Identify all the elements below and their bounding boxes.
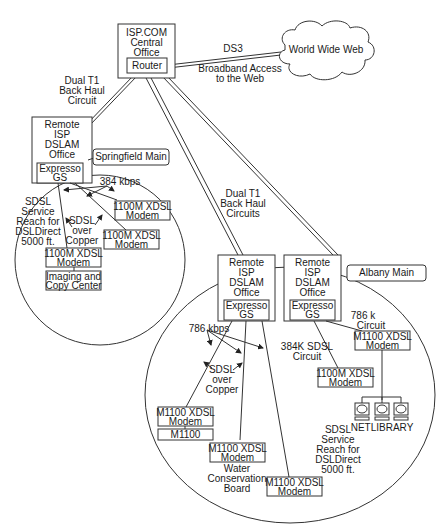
svg-text:Copper: Copper: [66, 235, 99, 246]
internet-cloud: World Wide Web: [279, 21, 374, 80]
albany-device-m1100: M1100: [158, 429, 213, 440]
svg-text:GS: GS: [239, 309, 254, 320]
albany-office-b: Remote ISP DSLAM Office Expresso GS: [284, 255, 341, 321]
svg-text:Circuit: Circuit: [357, 320, 386, 331]
albany-modem-a1: M1100 XDSL Modem: [156, 407, 215, 427]
svg-text:Office: Office: [134, 47, 160, 58]
svg-text:Modem: Modem: [278, 486, 311, 497]
svg-text:Board: Board: [224, 483, 251, 494]
svg-text:Modem: Modem: [126, 210, 159, 221]
albany-office-a: Remote ISP DSLAM Office Expresso GS: [218, 255, 275, 321]
albany-circuit-384-label: 384K SDSL Circuit: [281, 341, 334, 362]
albany-title: Albany Main: [359, 267, 414, 278]
springfield-office: Remote ISP DSLAM Office Expresso GS: [32, 117, 92, 183]
svg-text:GS: GS: [305, 309, 320, 320]
svg-text:Modem: Modem: [57, 257, 90, 268]
albany-medium-label: SDSL over Copper: [206, 364, 239, 395]
svg-text:5000 ft.: 5000 ft.: [21, 236, 54, 247]
svg-text:Modem: Modem: [329, 377, 362, 388]
svg-text:Office: Office: [300, 287, 326, 298]
albany-speed: 786 kbps: [189, 323, 230, 334]
backhaul-right-label: Dual T1 Back Haul Circuits: [220, 188, 266, 219]
springfield-modem-3: 1100M XDSL Modem: [44, 248, 103, 268]
central-office: ISP.COM Central Office Router: [118, 24, 175, 78]
springfield-title: Springfield Main: [95, 151, 167, 162]
albany-circuit-786-label: 786 k Circuit: [351, 310, 386, 331]
springfield-modem-2: 1100M XDSL Modem: [102, 230, 161, 250]
broadband-label-2: to the Web: [216, 73, 265, 84]
svg-text:World Wide Web: World Wide Web: [289, 44, 364, 55]
svg-text:GS: GS: [53, 172, 68, 183]
ds3-label: DS3: [223, 43, 243, 54]
computer-icon: [355, 403, 369, 420]
netlibrary-label: NETLIBRARY: [351, 422, 414, 433]
svg-text:Modem: Modem: [366, 340, 399, 351]
computer-icon: [394, 403, 408, 420]
springfield-site: Imaging and Copy Center: [45, 271, 102, 291]
albany-modem-b2: 1100M XDSL Modem: [316, 368, 375, 388]
svg-text:Office: Office: [234, 287, 260, 298]
svg-text:Circuits: Circuits: [226, 208, 259, 219]
svg-text:5000 ft.: 5000 ft.: [321, 464, 354, 475]
svg-text:Modem: Modem: [221, 452, 254, 463]
network-diagram: ISP.COM Central Office Router World Wide…: [0, 0, 445, 526]
springfield-modem-1: 1100M XDSL Modem: [113, 201, 172, 221]
svg-text:Copy Center: Copy Center: [45, 280, 102, 291]
albany-modem-a3: M1100 XDSL Modem: [265, 477, 324, 497]
springfield-medium-label: SDSL over Copper: [66, 215, 99, 246]
albany-modem-a2: M1100 XDSL Modem: [208, 443, 267, 463]
albany-modem-b1: M1100 XDSL Modem: [353, 331, 412, 351]
albany-site-a2: Water Conservation Board: [208, 463, 267, 494]
svg-text:Modem: Modem: [115, 239, 148, 250]
backhaul-left-label: Dual T1 Back Haul Circuit: [59, 75, 105, 106]
springfield-speed: 384 kbps: [100, 176, 141, 187]
springfield-reach-label: SDSL Service Reach for DSLDirect 5000 ft…: [15, 196, 61, 247]
svg-text:Circuit: Circuit: [293, 351, 322, 362]
computer-icon: [375, 403, 389, 420]
svg-text:Copper: Copper: [206, 384, 239, 395]
svg-text:Router: Router: [132, 60, 163, 71]
figure-caption-cutoff: [26, 520, 326, 526]
svg-text:Modem: Modem: [169, 416, 202, 427]
svg-text:Office: Office: [49, 149, 75, 160]
netlibrary-computers: [355, 397, 408, 420]
svg-text:M1100: M1100: [171, 429, 201, 440]
svg-text:Circuit: Circuit: [68, 95, 97, 106]
